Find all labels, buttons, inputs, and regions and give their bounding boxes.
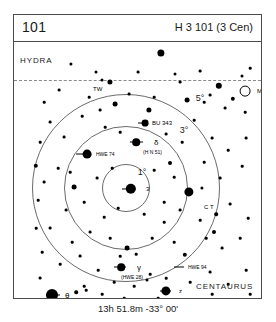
deep-sky-object-marker xyxy=(240,86,251,97)
star-marker xyxy=(219,177,222,180)
star-marker xyxy=(97,269,100,272)
star-marker xyxy=(227,149,230,152)
star-marker xyxy=(211,137,214,140)
star-marker xyxy=(241,165,244,168)
pointer-tick xyxy=(46,295,60,296)
star-marker xyxy=(107,79,112,84)
star-marker xyxy=(211,293,214,296)
star-marker xyxy=(83,285,86,288)
star-marker xyxy=(65,209,68,212)
star-marker xyxy=(174,73,177,76)
finder-chart-frame: 101 H 3 101 (3 Cen) 5°3°1° TWM83BU 343δ(… xyxy=(13,14,262,299)
object-label: z xyxy=(179,288,182,294)
star-marker xyxy=(214,212,218,216)
star-marker xyxy=(205,237,208,240)
star-marker xyxy=(128,93,131,96)
star-marker xyxy=(163,201,166,204)
star-marker xyxy=(119,131,122,134)
star-marker xyxy=(244,111,247,114)
star-marker xyxy=(193,119,196,122)
star-marker xyxy=(117,207,120,210)
star-marker xyxy=(173,241,176,244)
star-marker xyxy=(111,167,114,170)
star-marker xyxy=(41,251,44,254)
star-marker xyxy=(79,255,82,258)
star-marker xyxy=(43,181,46,184)
star-marker xyxy=(101,293,104,296)
ring-label: 3° xyxy=(180,125,189,135)
star-marker xyxy=(125,246,130,251)
star-marker xyxy=(157,49,164,56)
constellation-boundary-line xyxy=(14,80,261,82)
star-marker xyxy=(63,136,66,139)
star-marker xyxy=(231,97,235,101)
constellation-name: HYDRA xyxy=(20,56,53,65)
pointer-tick xyxy=(174,267,184,268)
object-label: TW xyxy=(93,86,102,92)
star-marker xyxy=(109,237,112,240)
star-marker xyxy=(181,141,184,144)
star-marker xyxy=(59,263,62,266)
object-label: C T xyxy=(204,204,214,210)
star-marker xyxy=(199,70,202,73)
star-marker xyxy=(143,213,146,216)
pointer-tick xyxy=(122,189,136,190)
object-label: θ xyxy=(65,291,69,299)
star-marker xyxy=(123,297,126,298)
star-marker xyxy=(199,219,202,222)
star-marker xyxy=(74,290,78,294)
object-label: HWE 94 xyxy=(188,264,207,270)
star-marker xyxy=(163,221,166,224)
star-marker xyxy=(135,253,138,256)
object-label: (HWE 28) xyxy=(121,274,143,280)
star-marker xyxy=(49,121,52,124)
star-marker xyxy=(203,161,206,164)
ring-label: 1° xyxy=(138,167,147,177)
star-marker xyxy=(209,94,212,97)
star-marker xyxy=(179,209,182,212)
star-marker xyxy=(221,247,224,250)
star-marker xyxy=(173,176,176,179)
object-designation: H 3 101 (3 Cen) xyxy=(175,21,253,33)
star-marker xyxy=(43,101,46,104)
star-marker xyxy=(49,227,52,230)
pointer-tick xyxy=(114,267,126,268)
star-marker xyxy=(57,167,60,170)
star-marker xyxy=(157,297,160,298)
star-marker xyxy=(104,126,107,129)
star-marker xyxy=(153,96,156,99)
star-marker xyxy=(137,71,140,74)
star-marker xyxy=(69,62,72,65)
star-marker xyxy=(99,109,102,112)
pointer-tick xyxy=(76,154,87,155)
star-marker xyxy=(216,83,222,89)
star-marker xyxy=(89,231,92,234)
star-marker xyxy=(241,75,244,78)
star-marker xyxy=(249,67,252,70)
star-marker xyxy=(85,289,88,292)
star-marker xyxy=(113,102,118,107)
star-marker xyxy=(37,199,40,202)
star-marker xyxy=(46,289,58,298)
star-marker xyxy=(224,107,227,110)
star-marker xyxy=(249,293,252,296)
pointer-tick xyxy=(138,123,146,124)
constellation-name: CENTAURUS xyxy=(196,282,253,291)
star-marker xyxy=(39,141,42,144)
star-marker xyxy=(101,79,104,82)
object-label: BU 343 xyxy=(152,120,172,126)
star-marker xyxy=(146,279,149,282)
object-label: M83 xyxy=(257,88,261,94)
coordinates-caption: 13h 51.8m -33° 00' xyxy=(0,303,276,314)
star-marker xyxy=(165,277,168,280)
star-marker xyxy=(168,161,172,165)
star-marker xyxy=(113,281,116,284)
star-marker xyxy=(153,169,156,172)
star-marker xyxy=(151,237,154,240)
star-marker xyxy=(88,96,91,99)
star-marker xyxy=(179,81,182,84)
star-marker xyxy=(229,203,232,206)
pointer-tick xyxy=(130,142,143,143)
star-marker xyxy=(149,273,152,276)
object-label: (H N 51) xyxy=(143,149,162,155)
